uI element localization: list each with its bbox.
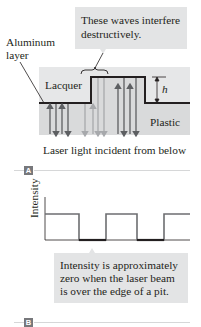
callout-b-line-2: zero when the laser beam [60, 272, 175, 286]
panel-b-rule [34, 322, 190, 323]
callout-b-line-3: is over the edge of a pit. [60, 285, 169, 299]
callout-b-line-1: Intensity is approximately [60, 259, 178, 273]
panel-tag-b: B [24, 318, 33, 327]
y-axis-label: Intensity [28, 178, 40, 218]
edge-of-pit-callout: Intensity is approximately zero when the… [54, 253, 188, 303]
panel-b-rule-left [14, 322, 24, 323]
intensity-trace [45, 214, 190, 240]
